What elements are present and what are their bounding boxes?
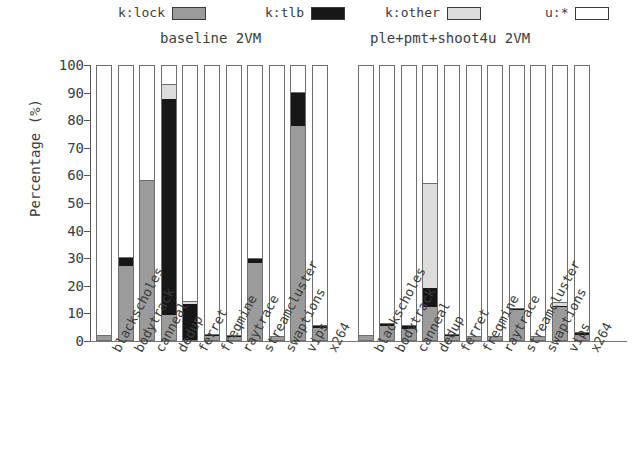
bar-blackscholes <box>96 65 112 341</box>
bar-freqmine <box>466 65 482 341</box>
y-tick-label: 50 <box>38 198 84 208</box>
legend-item-kother: k:other <box>385 2 481 24</box>
segment-divider <box>423 183 437 184</box>
bar-raytrace <box>487 65 503 341</box>
bar-segment-k-lock <box>359 336 373 340</box>
y-tick-label: 60 <box>38 170 84 180</box>
legend-label-klock: k:lock <box>118 2 165 24</box>
segment-divider <box>248 258 262 259</box>
legend-swatch-klock <box>172 7 206 20</box>
bar-bodytrack <box>118 65 134 341</box>
bar-blackscholes <box>358 65 374 341</box>
bar-bodytrack <box>379 65 395 341</box>
y-tick-label: 90 <box>38 88 84 98</box>
bar-freqmine <box>204 65 220 341</box>
bar-segment-k-other <box>162 85 176 99</box>
bar-segment-k-tlb <box>248 259 262 263</box>
y-tick-label: 70 <box>38 143 84 153</box>
group-title-baseline: baseline 2VM <box>160 30 261 46</box>
legend-label-ktlb: k:tlb <box>265 2 304 24</box>
segment-divider <box>291 92 305 93</box>
legend-swatch-ktlb <box>311 7 345 20</box>
bar-segment-k-tlb <box>291 93 305 126</box>
bar-segment-k-lock <box>97 336 111 340</box>
y-tick-label: 100 <box>38 60 84 70</box>
bar-segment-k-tlb <box>119 258 133 266</box>
y-tick-label: 20 <box>38 281 84 291</box>
legend-label-user: u:* <box>545 2 568 24</box>
y-tick-label: 80 <box>38 115 84 125</box>
segment-divider <box>119 257 133 258</box>
y-tick-label: 30 <box>38 253 84 263</box>
chart-legend: k:lock k:tlb k:other u:* <box>0 2 633 26</box>
y-axis-ticks: 0102030405060708090100 <box>22 0 84 451</box>
segment-divider <box>97 335 111 336</box>
segment-divider <box>140 180 154 181</box>
segment-divider <box>183 301 197 302</box>
legend-swatch-kother <box>447 7 481 20</box>
segment-divider <box>359 335 373 336</box>
legend-item-ktlb: k:tlb <box>265 2 345 24</box>
y-tick-label: 0 <box>38 336 84 346</box>
bar-ferret <box>182 65 198 341</box>
stacked-bar-chart: k:lock k:tlb k:other u:* baseline 2VM pl… <box>0 0 633 451</box>
y-tick-label: 40 <box>38 226 84 236</box>
segment-divider <box>162 84 176 85</box>
y-tick-label: 10 <box>38 308 84 318</box>
legend-item-klock: k:lock <box>118 2 206 24</box>
legend-item-user: u:* <box>545 2 609 24</box>
group-title-optimized: ple+pmt+shoot4u 2VM <box>370 30 530 46</box>
bar-segment-k-tlb <box>162 99 176 315</box>
bar-raytrace <box>226 65 242 341</box>
bar-ferret <box>444 65 460 341</box>
legend-swatch-user <box>575 7 609 20</box>
legend-label-kother: k:other <box>385 2 440 24</box>
